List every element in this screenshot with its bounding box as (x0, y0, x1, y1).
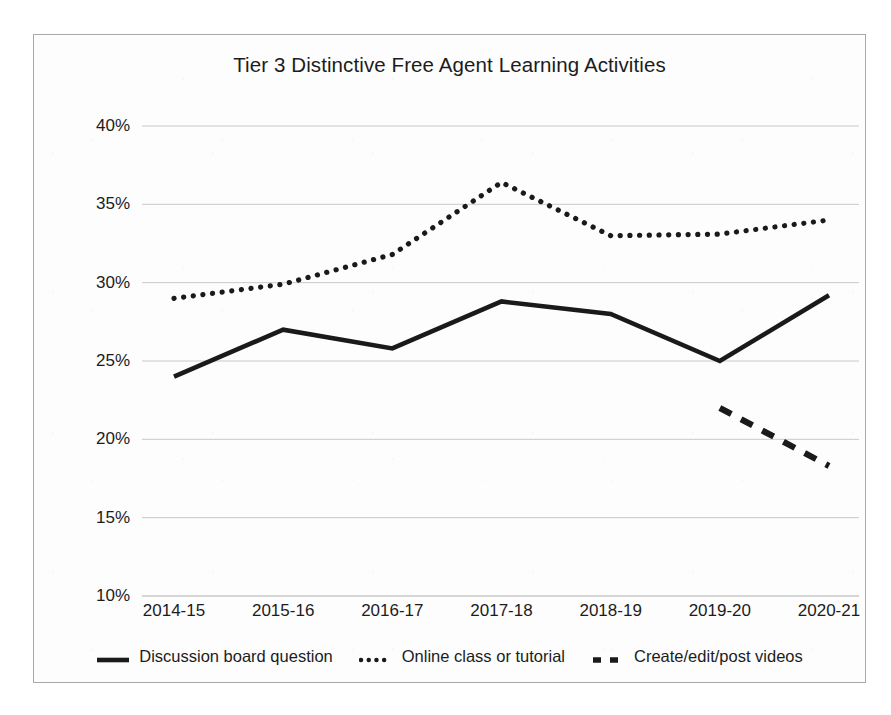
x-axis-tick-label: 2019-20 (689, 601, 751, 621)
legend-item[interactable]: Create/edit/post videos (591, 647, 803, 666)
plot-area (142, 126, 859, 596)
legend-label: Online class or tutorial (402, 647, 565, 666)
legend-label: Discussion board question (139, 647, 333, 666)
legend-swatch-solid-icon (96, 651, 130, 663)
chart-legend: Discussion board questionOnline class or… (34, 647, 865, 666)
y-axis-tick-label: 10% (96, 586, 130, 606)
x-axis-tick-label: 2017-18 (470, 601, 532, 621)
series-line (720, 408, 829, 466)
chart-card: Tier 3 Distinctive Free Agent Learning A… (33, 34, 866, 683)
series-line (174, 182, 829, 298)
y-axis-tick-label: 40% (96, 116, 130, 136)
x-axis-tick-label: 2015-16 (252, 601, 314, 621)
chart-title: Tier 3 Distinctive Free Agent Learning A… (34, 53, 865, 77)
series-layer (174, 182, 829, 466)
plot-svg (142, 126, 859, 596)
x-axis-tick-label: 2014-15 (143, 601, 205, 621)
y-axis-tick-label: 20% (96, 429, 130, 449)
x-axis-tick-label: 2018-19 (579, 601, 641, 621)
y-axis-tick-label: 30% (96, 273, 130, 293)
y-axis-tick-label: 15% (96, 508, 130, 528)
x-axis-tick-label: 2016-17 (361, 601, 423, 621)
legend-item[interactable]: Discussion board question (96, 647, 333, 666)
x-axis-tick-label: 2020-21 (798, 601, 860, 621)
y-axis: 10%15%20%25%30%35%40% (34, 126, 130, 596)
y-axis-tick-label: 25% (96, 351, 130, 371)
y-axis-tick-label: 35% (96, 194, 130, 214)
x-axis: 2014-152015-162016-172017-182018-192019-… (142, 601, 859, 629)
series-line (174, 295, 829, 376)
legend-item[interactable]: Online class or tutorial (359, 647, 565, 666)
legend-swatch-dotted-icon (359, 651, 393, 663)
legend-label: Create/edit/post videos (634, 647, 803, 666)
legend-swatch-dashed-icon (591, 651, 625, 663)
gridlines (142, 126, 859, 596)
